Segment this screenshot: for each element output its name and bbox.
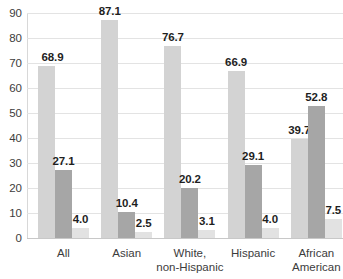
bar xyxy=(198,230,215,238)
bar xyxy=(308,106,325,238)
bar-value-label: 76.7 xyxy=(162,31,184,43)
y-tick-label: 80 xyxy=(0,32,22,44)
gridline-60 xyxy=(27,88,343,89)
bar xyxy=(291,139,308,238)
y-tick-label: 50 xyxy=(0,107,22,119)
y-tick-label: 60 xyxy=(0,82,22,94)
y-tick-label: 40 xyxy=(0,132,22,144)
bar xyxy=(262,228,279,238)
gridline-0 xyxy=(27,238,343,239)
bar-value-label: 3.1 xyxy=(199,215,215,227)
bar-value-label: 4.0 xyxy=(262,213,278,225)
y-tick-label: 0 xyxy=(0,232,22,244)
bar xyxy=(245,165,262,238)
y-tick-label: 20 xyxy=(0,182,22,194)
bar-chart: 68.927.14.087.110.42.576.720.23.166.929.… xyxy=(0,0,343,279)
category-label: African American xyxy=(271,247,343,274)
y-tick-label: 90 xyxy=(0,7,22,19)
gridline-80 xyxy=(27,38,343,39)
bar xyxy=(164,46,181,238)
bar xyxy=(135,232,152,238)
bar-value-label: 87.1 xyxy=(99,5,121,17)
plot-area: 68.927.14.087.110.42.576.720.23.166.929.… xyxy=(27,13,343,238)
y-tick-label: 70 xyxy=(0,57,22,69)
bar-value-label: 66.9 xyxy=(225,56,247,68)
bar-value-label: 68.9 xyxy=(42,51,64,63)
bar xyxy=(38,66,55,238)
gridline-90 xyxy=(27,13,343,14)
bar xyxy=(72,228,89,238)
bar xyxy=(181,188,198,239)
bar xyxy=(118,212,135,238)
bar-value-label: 2.5 xyxy=(136,217,152,229)
bar-value-label: 10.4 xyxy=(116,197,138,209)
gridline-70 xyxy=(27,63,343,64)
bar-value-label: 52.8 xyxy=(305,91,327,103)
bar-value-label: 29.1 xyxy=(242,150,264,162)
bar-value-label: 4.0 xyxy=(73,213,89,225)
bar-value-label: 20.2 xyxy=(179,173,201,185)
bar xyxy=(55,170,72,238)
bar-value-label: 27.1 xyxy=(53,155,75,167)
bar-value-label: 7.5 xyxy=(325,204,341,216)
gridline-50 xyxy=(27,113,343,114)
y-tick-label: 10 xyxy=(0,207,22,219)
bar xyxy=(325,219,342,238)
y-tick-label: 30 xyxy=(0,157,22,169)
